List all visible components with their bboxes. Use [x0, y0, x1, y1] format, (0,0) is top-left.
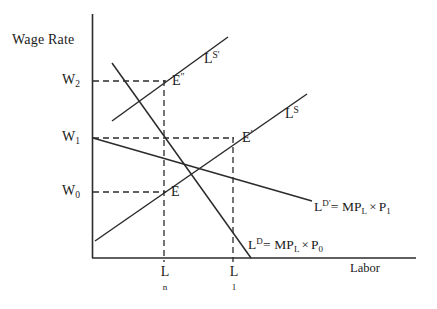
ld-prime-equals: = MP [331, 199, 362, 214]
x-tick-ln: Ln [156, 265, 174, 292]
labor-demand-curve [112, 63, 251, 258]
labor-supply-shifted-curve [112, 37, 228, 121]
x-tick-l1: L1 [225, 265, 243, 292]
multiply-icon-0: × [299, 237, 310, 252]
y-tick-w1-text: W [62, 129, 75, 144]
ld-price: P [311, 237, 319, 252]
curve-label-labor-demand-shifted: LD'= MPL×P1 [314, 200, 391, 214]
y-tick-w0-sub: 0 [75, 190, 80, 200]
labor-supply-curve [95, 94, 307, 241]
y-tick-w2-text: W [62, 72, 75, 87]
x-tick-ln-sub: n [156, 283, 174, 292]
ld-sup: D [256, 236, 263, 246]
equilibrium-label-E-double-prime: E″ [172, 74, 185, 88]
x-tick-ln-text: L [161, 264, 170, 279]
y-tick-w0: W0 [62, 184, 80, 198]
equilibrium-label-E: E [171, 185, 180, 199]
ld-prime-price-sub: 1 [386, 206, 391, 216]
curve-label-ls-text: L [285, 106, 294, 121]
y-tick-w2-sub: 2 [75, 79, 80, 89]
y-tick-w1: W1 [62, 130, 80, 144]
multiply-icon-1: × [367, 199, 378, 214]
y-axis-label: Wage Rate [12, 33, 74, 47]
equilibrium-E-double-prime-text: E [172, 73, 181, 88]
equilibrium-E-prime-sup: ′ [251, 128, 254, 139]
labor-market-diagram: Wage Rate Labor W2 W1 W0 Ln L1 LS' LS LD… [0, 0, 437, 309]
ld-price-sub: 0 [319, 244, 324, 254]
x-tick-l1-text: L [230, 264, 239, 279]
curve-label-labor-supply-shifted: LS' [204, 52, 220, 66]
x-tick-l1-sub: 1 [225, 283, 243, 292]
ld-equals-sub: L [294, 244, 300, 254]
ld-prime-equals-sub: L [362, 206, 368, 216]
equilibrium-E-prime-text: E [242, 130, 251, 145]
y-tick-w2: W2 [62, 73, 80, 87]
curve-label-ls-prime-sup: S' [213, 50, 220, 60]
y-tick-w0-text: W [62, 183, 75, 198]
curve-label-ls-prime-text: L [204, 51, 213, 66]
curve-label-labor-supply: LS [285, 107, 299, 121]
ld-prime-sup: D' [322, 198, 330, 208]
curve-label-labor-demand: LD= MPL×P0 [248, 238, 323, 252]
y-tick-w1-sub: 1 [75, 136, 80, 146]
curve-label-ls-sup: S [294, 105, 299, 115]
equilibrium-label-E-prime: E′ [242, 131, 253, 145]
x-axis-label: Labor [350, 262, 380, 275]
equilibrium-E-double-prime-sup: ″ [181, 71, 186, 82]
equilibrium-E-text: E [171, 184, 180, 199]
ld-equals: = MP [263, 237, 294, 252]
